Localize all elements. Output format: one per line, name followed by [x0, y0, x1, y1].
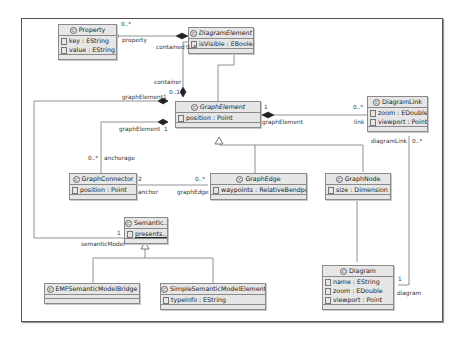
role-label: graphElement — [119, 126, 160, 132]
role-label: graphElement — [122, 94, 163, 100]
multiplicity-label: 1 — [117, 230, 121, 236]
role-label: graphEdge — [177, 189, 209, 195]
attribute-icon — [127, 231, 133, 238]
class-icon: C — [70, 27, 77, 34]
class-graph-connector[interactable]: CGraphConnector position : Point — [69, 173, 137, 200]
class-diagram-element[interactable]: CDiagramElement isVisible : EBoolean — [188, 27, 254, 54]
role-label: container — [154, 79, 181, 85]
multiplicity-label: 1 — [164, 126, 168, 132]
class-graph-edge[interactable]: CGraphEdge waypoints : RelativeBendpoint — [210, 173, 307, 200]
multiplicity-label: 0..* — [121, 21, 131, 27]
multiplicity-label: 0..* — [353, 104, 363, 110]
class-diagram[interactable]: CDiagram name : EString zoom : EDouble v… — [322, 265, 394, 310]
class-header: CSimpleSemanticModelElement — [161, 284, 265, 295]
role-label: contained — [156, 44, 185, 50]
role-label: anchorage — [104, 155, 135, 161]
role-label: diagram — [397, 290, 421, 296]
class-header: CGraphElement — [176, 102, 260, 113]
class-property[interactable]: CProperty key : EString value : EString — [58, 24, 117, 60]
class-icon: C — [236, 176, 243, 183]
class-icon: C — [47, 286, 54, 293]
multiplicity-label: 0..* — [195, 176, 205, 182]
class-icon: C — [340, 268, 347, 275]
attribute: size : Dimension — [326, 185, 390, 194]
class-diagram-link[interactable]: CDiagramLink zoom : EDouble viewport : P… — [367, 96, 428, 132]
attribute-icon — [213, 187, 219, 194]
multiplicity-label: 0..* — [412, 138, 422, 144]
class-header: CEMFSemanticModelBridge — [45, 284, 139, 295]
attribute-icon — [370, 119, 376, 126]
attribute-icon — [325, 279, 331, 286]
class-icon: C — [336, 176, 343, 183]
attribute: zoom : EDouble — [368, 108, 427, 117]
class-header: CDiagram — [323, 266, 393, 277]
class-header: CDiagramElement — [189, 28, 253, 39]
role-label: property — [122, 37, 147, 43]
attribute-icon — [61, 47, 67, 54]
attribute: waypoints : RelativeBendpoint — [211, 185, 306, 194]
attribute: name : EString — [323, 277, 393, 286]
attribute: position : Point — [176, 113, 260, 122]
multiplicity-label: 1 — [398, 276, 402, 282]
class-icon: C — [125, 220, 132, 227]
attribute: isVisible : EBoolean — [189, 39, 253, 48]
attribute: value : EString — [59, 45, 116, 54]
class-header: CGraphEdge — [211, 174, 306, 185]
multiplicity-label: 0..* — [88, 155, 98, 161]
class-header: CDiagramLink — [368, 97, 427, 108]
attribute: viewport : Point — [323, 295, 393, 304]
class-semantic-model-bridge[interactable]: CSemantic... presents... — [124, 217, 168, 244]
attribute: position : Point — [70, 185, 136, 194]
multiplicity-label: 0..1 — [169, 89, 180, 95]
class-graph-element[interactable]: CGraphElement position : Point — [175, 101, 261, 128]
class-icon: C — [191, 104, 198, 111]
class-diagram-canvas: CProperty key : EString value : EString … — [0, 0, 465, 338]
class-header: CProperty — [59, 25, 116, 36]
class-header: CSemantic... — [125, 218, 167, 229]
attribute-icon — [325, 297, 331, 304]
attribute-icon — [178, 115, 184, 122]
role-label: graphElement — [262, 119, 303, 125]
attribute: presents... — [125, 229, 167, 238]
role-label: diagramLink — [371, 138, 407, 144]
role-label: anchor — [138, 189, 158, 195]
attribute: viewport : Point — [368, 117, 427, 126]
class-simple-semantic-model-element[interactable]: CSimpleSemanticModelElement typeInfo : E… — [160, 283, 266, 310]
attribute: zoom : EDouble — [323, 286, 393, 295]
class-icon: C — [373, 99, 380, 106]
class-header: CGraphConnector — [70, 174, 136, 185]
class-icon: C — [161, 286, 168, 293]
role-label: semanticModel — [81, 241, 125, 247]
attribute-icon — [163, 297, 169, 304]
role-label: link — [354, 119, 364, 125]
class-icon: C — [190, 30, 197, 37]
attribute-icon — [72, 187, 78, 194]
class-header: CGraphNode — [326, 174, 390, 185]
attribute-icon — [370, 110, 376, 117]
class-graph-node[interactable]: CGraphNode size : Dimension — [325, 173, 391, 200]
multiplicity-label: 0..* — [186, 44, 196, 50]
class-emf-semantic-model-bridge[interactable]: CEMFSemanticModelBridge — [44, 283, 140, 304]
multiplicity-label: 1 — [264, 104, 268, 110]
attribute-icon — [61, 38, 67, 45]
attribute-icon — [325, 288, 331, 295]
attribute: key : EString — [59, 36, 116, 45]
multiplicity-label: 2 — [138, 176, 142, 182]
attribute-icon — [328, 187, 334, 194]
multiplicity-label: 1 — [163, 94, 167, 100]
attribute: typeInfo : EString — [161, 295, 265, 304]
class-icon: C — [73, 176, 80, 183]
